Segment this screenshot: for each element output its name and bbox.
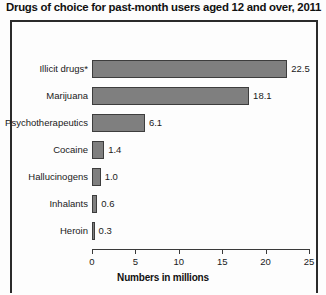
x-axis-line — [92, 249, 309, 250]
bar — [92, 60, 287, 78]
bar-value-label: 0.6 — [101, 195, 114, 213]
category-label: Psychotherapeutics — [5, 114, 88, 132]
x-axis-tick — [222, 249, 223, 254]
x-axis-tick-label: 20 — [260, 256, 271, 267]
x-axis-label: Numbers in millions — [0, 272, 326, 283]
frame-right-border — [316, 20, 318, 293]
chart-figure: Drugs of choice for past-month users age… — [0, 0, 326, 295]
bar — [92, 141, 104, 159]
x-axis-tick — [92, 249, 93, 254]
bar-value-label: 0.3 — [99, 222, 112, 240]
category-label: Heroin — [60, 222, 88, 240]
bar — [92, 168, 101, 186]
bar-value-label: 1.4 — [108, 141, 121, 159]
x-axis-tick-label: 15 — [217, 256, 228, 267]
category-label: Inhalants — [49, 195, 88, 213]
plot-area: Illicit drugs*22.5Marijuana18.1Psychothe… — [92, 60, 309, 249]
bar-value-label: 18.1 — [253, 87, 272, 105]
x-axis-tick-label: 25 — [304, 256, 315, 267]
category-label: Cocaine — [53, 141, 88, 159]
x-axis-tick — [309, 249, 310, 254]
bar-value-label: 6.1 — [149, 114, 162, 132]
category-label: Hallucinogens — [28, 168, 88, 186]
bar — [92, 87, 249, 105]
category-label: Marijuana — [46, 87, 88, 105]
bar — [92, 195, 97, 213]
frame-top-border — [10, 20, 318, 22]
x-axis-tick — [179, 249, 180, 254]
bar — [92, 114, 145, 132]
bar-value-label: 22.5 — [291, 60, 310, 78]
chart-title: Drugs of choice for past-month users age… — [6, 1, 326, 13]
bar-value-label: 1.0 — [105, 168, 118, 186]
bar — [92, 222, 95, 240]
x-axis-tick — [266, 249, 267, 254]
x-axis-tick-label: 0 — [89, 256, 94, 267]
frame-left-border — [10, 20, 12, 293]
x-axis-tick-label: 5 — [133, 256, 138, 267]
category-label: Illicit drugs* — [39, 60, 88, 78]
x-axis-tick-label: 10 — [174, 256, 185, 267]
x-axis-tick — [135, 249, 136, 254]
